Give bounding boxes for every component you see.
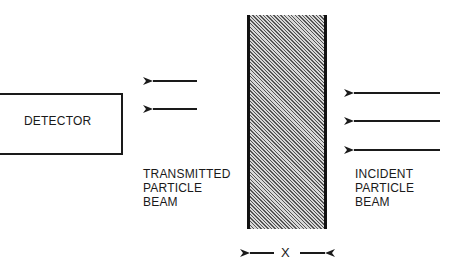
incident-label-line: BEAM bbox=[355, 195, 414, 209]
incident-label-line: INCIDENT bbox=[355, 167, 414, 181]
transmitted-label-line: PARTICLE bbox=[143, 181, 231, 195]
transmitted-label-line: TRANSMITTED bbox=[143, 167, 231, 181]
incident-beam-arrows bbox=[354, 93, 440, 150]
transmitted-beam-arrows bbox=[153, 81, 197, 109]
incident-beam-label: INCIDENT PARTICLE BEAM bbox=[355, 167, 414, 209]
thickness-label: X bbox=[281, 246, 290, 260]
arrows-layer bbox=[0, 0, 465, 268]
transmitted-label-line: BEAM bbox=[143, 195, 231, 209]
incident-label-line: PARTICLE bbox=[355, 181, 414, 195]
transmitted-beam-label: TRANSMITTED PARTICLE BEAM bbox=[143, 167, 231, 209]
